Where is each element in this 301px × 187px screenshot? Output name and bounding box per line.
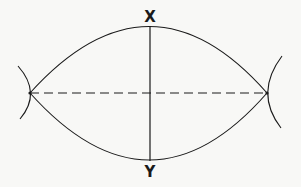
lower-arc (30, 93, 267, 160)
right-crossing-arc (268, 56, 282, 128)
construction-drawing: X Y (0, 0, 301, 187)
label-x: X (144, 8, 156, 26)
geometric-diagram: X Y (0, 0, 301, 187)
upper-arc (30, 27, 267, 94)
label-y: Y (144, 163, 157, 181)
left-intersection-point (28, 91, 31, 94)
right-intersection-point (265, 91, 268, 94)
